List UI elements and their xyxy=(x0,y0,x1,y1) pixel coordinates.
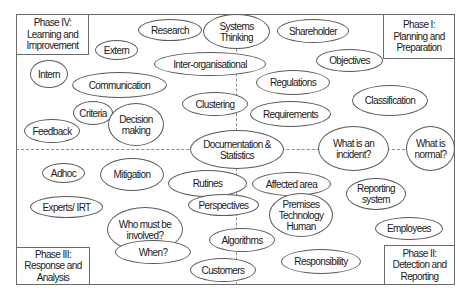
node-label-line1: Premises xyxy=(283,199,320,210)
phase-3-line2: Response and xyxy=(24,260,81,272)
node-affected-area[interactable]: Affected area xyxy=(252,172,331,196)
node-label: Employees xyxy=(387,223,431,234)
node-label: Classification xyxy=(365,95,416,106)
phase-1-box: Phase I: Planning and Preparation xyxy=(383,14,455,59)
node-decision-making[interactable]: Decision making xyxy=(108,103,164,146)
node-label-line2: Technology xyxy=(279,210,324,221)
node-regulations[interactable]: Regulations xyxy=(256,70,330,95)
node-label: Responsibility xyxy=(294,256,347,267)
node-documentation-statistics[interactable]: Documentation & Statistics xyxy=(190,130,284,169)
node-shareholder[interactable]: Shareholder xyxy=(277,19,349,43)
node-adhoc[interactable]: Adhoc xyxy=(42,163,85,183)
node-label-line1: Reporting xyxy=(357,183,395,194)
node-label-line2: Statistics xyxy=(220,150,254,161)
node-extern[interactable]: Extern xyxy=(95,40,138,60)
node-label: Criteria xyxy=(79,108,106,119)
phase-2-box: Phase II: Detection and Reporting xyxy=(384,245,455,285)
node-label: Shareholder xyxy=(289,26,337,37)
node-label-line1: What is xyxy=(416,138,445,149)
node-objectives[interactable]: Objectives xyxy=(316,49,383,72)
node-label: Extern xyxy=(104,45,129,56)
node-when[interactable]: When? xyxy=(115,240,191,264)
node-label: Requirements xyxy=(263,109,318,120)
phase-3-title: Phase III: xyxy=(35,249,71,261)
node-inter-organisational[interactable]: Inter-organisational xyxy=(154,52,266,76)
node-experts-irt[interactable]: Experts/ IRT xyxy=(30,196,103,218)
node-research[interactable]: Research xyxy=(138,19,202,41)
node-rutines[interactable]: Rutines xyxy=(168,170,247,197)
phase-3-line3: Analysis xyxy=(37,272,69,284)
node-label: Clustering xyxy=(195,99,234,110)
node-algorithms[interactable]: Algorithms xyxy=(209,228,275,252)
node-label-line3: Human xyxy=(286,221,315,232)
node-label-line2: normal? xyxy=(415,149,447,160)
node-criteria[interactable]: Criteria xyxy=(73,101,113,125)
node-label: Affected area xyxy=(266,179,318,190)
node-label-line1: Systems xyxy=(219,21,253,32)
node-employees[interactable]: Employees xyxy=(375,217,443,240)
node-label: Customers xyxy=(202,265,245,276)
node-label: Feedback xyxy=(32,126,71,137)
phase-1-line3: Preparation xyxy=(396,42,441,54)
node-label-line1: Documentation & xyxy=(203,139,271,150)
node-label-line2: system xyxy=(362,194,390,205)
node-label-line1: Who must be xyxy=(119,219,171,230)
phase-3-box: Phase III: Response and Analysis xyxy=(16,247,90,285)
phase-4-line2: Learning and xyxy=(27,29,78,41)
node-label: Inter-organisational xyxy=(173,59,247,70)
phase-2-title: Phase II: xyxy=(402,248,436,260)
node-label: Intern xyxy=(38,69,60,80)
node-systems-thinking[interactable]: Systems Thinking xyxy=(203,14,270,49)
node-label-line1: Decision xyxy=(119,114,153,125)
phase-1-title: Phase I: xyxy=(403,19,435,31)
node-classification[interactable]: Classification xyxy=(352,85,428,116)
node-communication[interactable]: Communication xyxy=(72,72,167,98)
node-label: Research xyxy=(151,25,189,36)
node-label-line1: What is an xyxy=(333,138,374,149)
node-label-line2: involved? xyxy=(127,230,164,241)
node-customers[interactable]: Customers xyxy=(190,258,256,282)
node-label: Experts/ IRT xyxy=(42,202,90,213)
node-perspectives[interactable]: Perspectives xyxy=(188,194,259,216)
node-label: Mitigation xyxy=(114,169,151,180)
node-label: Regulations xyxy=(270,77,316,88)
node-label: Rutines xyxy=(193,178,223,189)
phase-2-line2: Detection and xyxy=(393,259,447,271)
node-label: When? xyxy=(139,247,168,258)
phase-4-line3: Improvement xyxy=(27,40,79,52)
node-label: Communication xyxy=(89,80,151,91)
node-label-line2: making xyxy=(122,125,151,136)
node-reporting-system[interactable]: Reporting system xyxy=(346,178,406,210)
node-label: Algorithms xyxy=(221,235,262,246)
node-responsibility[interactable]: Responsibility xyxy=(281,249,361,274)
node-premises-technology-human[interactable]: Premises Technology Human xyxy=(269,193,333,237)
phase-1-line2: Planning and xyxy=(393,31,444,43)
node-label: Objectives xyxy=(329,55,370,66)
phase-2-line3: Reporting xyxy=(401,271,439,283)
phase-4-title: Phase IV: xyxy=(34,17,72,29)
node-intern[interactable]: Intern xyxy=(30,60,68,88)
node-mitigation[interactable]: Mitigation xyxy=(100,158,164,191)
node-label: Perspectives xyxy=(198,200,248,211)
phase-4-box: Phase IV: Learning and Improvement xyxy=(16,14,89,55)
node-label-line2: Thinking xyxy=(220,32,253,43)
incident-management-phase-diagram: Phase IV: Learning and Improvement Phase… xyxy=(0,0,469,299)
node-label: Adhoc xyxy=(51,168,76,179)
node-what-is-an-incident[interactable]: What is an incident? xyxy=(318,126,389,171)
node-what-is-normal[interactable]: What is normal? xyxy=(406,126,455,171)
node-requirements[interactable]: Requirements xyxy=(250,101,331,127)
node-clustering[interactable]: Clustering xyxy=(182,92,248,116)
node-feedback[interactable]: Feedback xyxy=(24,119,80,143)
node-label-line2: incident? xyxy=(336,149,371,160)
